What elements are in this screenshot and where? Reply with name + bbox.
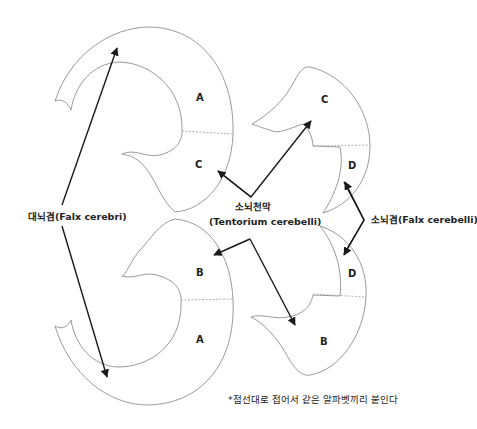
label-tentorium-english: (Tentorium cerebelli) [209, 216, 321, 227]
letter-d-top: D [348, 160, 356, 171]
dura-mater-cutout-diagram: A C B A C D D B 대뇌겸(Falx cerebri) 소뇌천막 (… [0, 0, 477, 429]
letter-c-right: C [321, 94, 328, 105]
fold-line [182, 131, 233, 134]
letter-b-right: B [320, 336, 328, 347]
instruction-note: *점선대로 접어서 같은 알파벳끼리 붙인다 [228, 394, 398, 405]
label-falx-cerebelli: 소뇌겸(Falx cerebelli) [371, 214, 477, 225]
piece-left-top [55, 27, 233, 212]
label-tentorium-korean: 소뇌천막 [235, 201, 271, 212]
piece-right-bottom [251, 226, 366, 375]
fold-line [181, 299, 233, 300]
piece-right-top [252, 67, 370, 213]
letter-c-left: C [195, 159, 202, 170]
letter-a-top: A [196, 92, 204, 103]
label-falx-cerebri: 대뇌겸(Falx cerebri) [28, 211, 127, 222]
letter-a-bottom: A [196, 334, 204, 345]
letter-b-left: B [196, 267, 204, 278]
piece-left-bottom [55, 219, 233, 405]
fold-line [313, 145, 369, 146]
letter-d-bottom: D [348, 268, 356, 279]
